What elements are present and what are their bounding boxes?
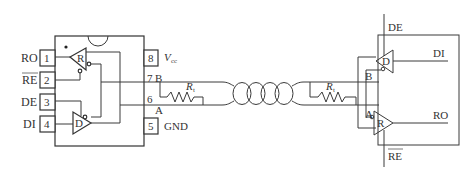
pin-8-number: 8 (148, 52, 154, 64)
label-de: DE (21, 95, 37, 109)
pin-2-number: 2 (44, 74, 50, 86)
left-rt-sub: t (193, 86, 195, 94)
label-ro: RO (21, 51, 38, 65)
right-receiver-label: R (377, 117, 385, 129)
label-gnd: GND (164, 120, 188, 132)
pin1-dot (64, 45, 67, 48)
label-di-right: DI (433, 47, 445, 59)
left-receiver-label: R (77, 52, 85, 64)
pin-5-number: 5 (148, 120, 154, 132)
right-rt-label: R (325, 80, 333, 92)
label-di: DI (23, 117, 36, 131)
label-ro-right: RO (433, 109, 448, 121)
label-vcc-sub: cc (171, 57, 177, 65)
right-de-bubble (381, 67, 385, 71)
de-bubble (83, 115, 87, 119)
pin-4-number: 4 (44, 118, 50, 130)
left-chip: 1 2 3 4 RO RE DE DI 8 5 7 6 V cc B A GND… (21, 36, 188, 146)
label-re-bar: RE (22, 73, 37, 87)
rs485-diagram: 1 2 3 4 RO RE DE DI 8 5 7 6 V cc B A GND… (0, 0, 470, 177)
right-rt-sub: t (333, 86, 335, 94)
left-terminator-resistor (160, 82, 203, 105)
label-a-left: A (155, 104, 163, 116)
label-de-right: DE (388, 21, 403, 33)
right-chip: B A DE D DI R RO RE (358, 14, 459, 167)
twisted-pair-cable (222, 82, 304, 105)
bus: R t R t (144, 80, 379, 105)
left-rt-label: R (185, 80, 193, 92)
re-bubble (78, 69, 82, 73)
label-re-right: RE (388, 150, 402, 162)
pin-1-number: 1 (44, 52, 50, 64)
pin-3-number: 3 (44, 96, 50, 108)
inv-bubble (87, 62, 91, 66)
right-driver-label: D (382, 55, 390, 67)
pin-6-number: 6 (147, 93, 153, 105)
left-driver-label: D (75, 117, 83, 129)
